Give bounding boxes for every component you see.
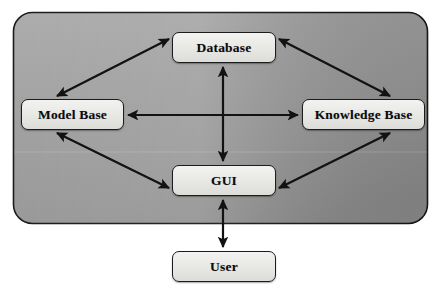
node-model-base-label: Model Base: [38, 107, 107, 123]
node-gui[interactable]: GUI: [172, 165, 276, 196]
node-knowledge-base-label: Knowledge Base: [315, 107, 413, 123]
node-gui-label: GUI: [211, 173, 237, 189]
node-model-base[interactable]: Model Base: [21, 99, 124, 130]
node-user-label: User: [210, 259, 238, 275]
node-database[interactable]: Database: [172, 32, 276, 63]
node-knowledge-base[interactable]: Knowledge Base: [302, 99, 425, 130]
node-user[interactable]: User: [172, 251, 276, 282]
node-database-label: Database: [197, 40, 252, 56]
diagram-canvas: Database Model Base Knowledge Base GUI U…: [0, 0, 443, 295]
